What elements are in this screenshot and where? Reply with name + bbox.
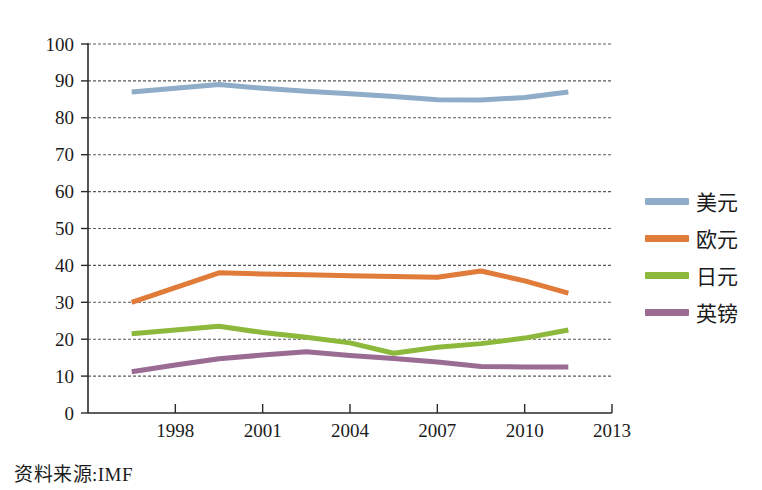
y-tick-label-30: 30 — [55, 292, 74, 313]
y-axis-tick-labels: 0102030405060708090100 — [46, 34, 75, 424]
series-line-美元 — [132, 85, 569, 101]
legend-item-美元: 美元 — [645, 186, 738, 216]
y-tick-label-100: 100 — [46, 34, 75, 55]
figure-container: 0102030405060708090100 19982001200420072… — [0, 0, 762, 490]
legend-item-欧元: 欧元 — [645, 223, 738, 253]
y-axis-ticks — [81, 44, 88, 413]
y-tick-label-10: 10 — [55, 366, 74, 387]
series-line-日元 — [132, 326, 569, 353]
legend-swatch-jpy — [645, 272, 689, 279]
legend-label-英镑: 英镑 — [696, 297, 738, 327]
x-axis-tick-labels: 199820012004200720102013 — [156, 420, 631, 441]
x-tick-label-2013: 2013 — [593, 420, 631, 441]
x-tick-label-2007: 2007 — [418, 420, 456, 441]
legend-item-日元: 日元 — [645, 260, 738, 290]
y-tick-label-80: 80 — [55, 107, 74, 128]
legend-swatch-usd — [645, 198, 689, 205]
x-tick-label-2004: 2004 — [331, 420, 370, 441]
legend-item-英镑: 英镑 — [645, 297, 738, 327]
legend-swatch-eur — [645, 235, 689, 242]
source-note: 资料来源:IMF — [14, 459, 133, 486]
y-tick-label-40: 40 — [55, 255, 74, 276]
legend-label-日元: 日元 — [696, 260, 738, 290]
y-tick-label-0: 0 — [65, 403, 75, 424]
y-tick-label-50: 50 — [55, 218, 74, 239]
y-tick-label-20: 20 — [55, 329, 74, 350]
legend-label-欧元: 欧元 — [696, 223, 738, 253]
x-tick-label-2001: 2001 — [244, 420, 282, 441]
series-line-欧元 — [132, 271, 569, 302]
x-tick-label-1998: 1998 — [156, 420, 194, 441]
legend-swatch-gbp — [645, 309, 689, 316]
legend-label-美元: 美元 — [696, 186, 738, 216]
series-line-英镑 — [132, 352, 569, 372]
y-tick-label-70: 70 — [55, 144, 74, 165]
x-axis-ticks — [175, 404, 524, 413]
y-tick-label-60: 60 — [55, 181, 74, 202]
x-tick-label-2010: 2010 — [506, 420, 544, 441]
y-tick-label-90: 90 — [55, 70, 74, 91]
